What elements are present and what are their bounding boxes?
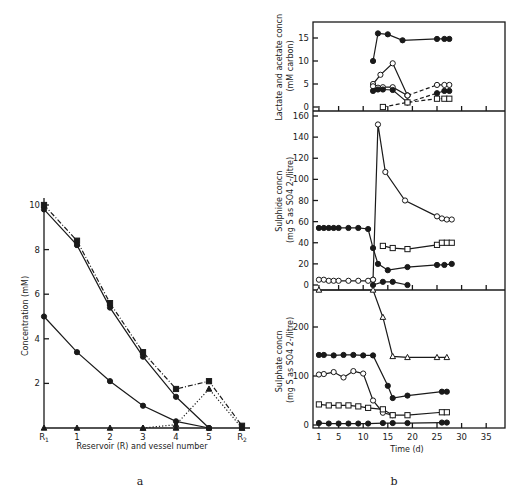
data-point-marker	[405, 420, 410, 425]
data-point-marker	[321, 371, 326, 376]
data-point-marker	[351, 352, 356, 357]
data-point-marker	[41, 314, 46, 319]
y-tick-label: 10	[298, 56, 309, 66]
data-point-marker	[434, 262, 439, 267]
data-point-marker	[405, 393, 410, 398]
panel-b-bottom	[316, 287, 450, 426]
y-tick-label: 100	[293, 174, 309, 184]
data-point-marker	[390, 395, 395, 400]
data-point-marker	[390, 279, 395, 284]
data-point-marker	[444, 217, 449, 222]
y-tick-label: 0	[304, 420, 309, 430]
chart-a-y-label: Concentration (mM)	[21, 276, 30, 356]
x-tick-label: 35	[481, 432, 492, 442]
y-tick-label: 20	[298, 259, 309, 269]
data-point-marker	[405, 264, 410, 269]
y-tick-label: 40	[298, 238, 309, 248]
data-point-marker	[341, 375, 346, 380]
data-point-marker	[375, 122, 380, 127]
data-point-marker	[390, 245, 395, 250]
y-tick-label: 15	[298, 33, 309, 43]
data-point-marker	[447, 36, 452, 41]
y-tick-label: 100	[293, 371, 309, 381]
series-0	[370, 122, 454, 282]
data-point-marker	[316, 420, 321, 425]
panel-b-top	[370, 31, 451, 110]
series-1	[370, 61, 410, 98]
x-tick-label: 4	[173, 432, 178, 442]
data-point-marker	[375, 31, 380, 36]
data-point-marker	[346, 278, 351, 283]
data-point-marker	[449, 217, 454, 222]
data-point-marker	[336, 403, 341, 408]
series-line	[319, 228, 452, 270]
chart-b-ticks: 0510150204060801001201401600100200151015…	[293, 33, 492, 442]
y-tick-label: 4	[35, 334, 40, 344]
data-point-marker	[206, 386, 212, 391]
data-point-marker	[346, 403, 351, 408]
data-point-marker	[375, 261, 380, 266]
data-point-marker	[444, 420, 449, 425]
data-point-marker	[361, 371, 366, 376]
data-point-marker	[378, 72, 383, 77]
series-line	[44, 317, 209, 429]
data-point-marker	[444, 240, 449, 245]
data-point-marker	[385, 268, 390, 273]
data-point-marker	[449, 240, 454, 245]
data-point-marker	[434, 36, 439, 41]
panel-b-caption: b	[390, 475, 397, 488]
data-point-marker	[444, 354, 450, 359]
x-tick-label: R1	[39, 432, 49, 443]
x-tick-label: 10	[358, 432, 369, 442]
data-point-marker	[326, 403, 331, 408]
series-0	[316, 287, 450, 360]
data-point-marker	[442, 262, 447, 267]
data-point-marker	[173, 386, 178, 391]
y-tick-label: 5	[304, 79, 309, 89]
series-line	[143, 389, 242, 428]
series-3	[316, 277, 375, 283]
data-point-marker	[383, 169, 388, 174]
chart-b: 0510150204060801001201401600100200151015…	[275, 11, 505, 488]
y-tick-label: 10	[29, 200, 40, 210]
data-point-marker	[336, 278, 341, 283]
data-point-marker	[405, 282, 410, 287]
panel-a-caption: a	[137, 475, 144, 488]
data-point-marker	[370, 287, 376, 292]
x-tick-label: 20	[407, 432, 418, 442]
y-tick-label: 80	[298, 196, 309, 206]
data-point-marker	[361, 353, 366, 358]
series-1	[316, 352, 449, 400]
data-point-marker	[140, 425, 146, 430]
x-tick-label: 2	[107, 432, 112, 442]
data-point-marker	[380, 314, 386, 319]
chart-a: 246810 R112345R2 Concentration (mM) Rese…	[21, 198, 250, 488]
data-point-marker	[74, 238, 79, 243]
data-point-marker	[370, 88, 375, 93]
series-1	[316, 225, 454, 272]
data-point-marker	[405, 354, 411, 359]
data-point-marker	[107, 425, 113, 430]
data-point-marker	[316, 287, 322, 292]
data-point-marker	[444, 389, 449, 394]
data-point-marker	[316, 372, 321, 377]
data-point-marker	[390, 413, 395, 418]
data-point-marker	[380, 243, 385, 248]
data-point-marker	[434, 96, 439, 101]
data-point-marker	[341, 352, 346, 357]
data-point-marker	[434, 91, 439, 96]
data-point-marker	[336, 421, 341, 426]
data-point-marker	[370, 58, 375, 63]
data-point-marker	[447, 96, 452, 101]
data-point-marker	[331, 353, 336, 358]
y-tick-label: 0	[304, 280, 309, 290]
data-point-marker	[346, 225, 351, 230]
data-point-marker	[434, 354, 440, 359]
data-point-marker	[402, 198, 407, 203]
data-point-marker	[326, 421, 331, 426]
data-point-marker	[370, 353, 375, 358]
data-point-marker	[405, 100, 410, 105]
series-1	[41, 202, 244, 428]
chart-b-frame	[313, 22, 505, 428]
data-point-marker	[41, 425, 47, 430]
